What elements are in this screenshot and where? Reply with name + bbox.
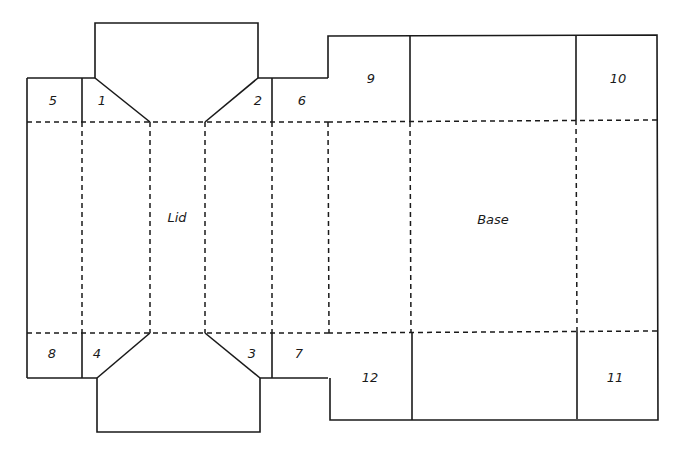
box-net-diagram xyxy=(0,0,681,452)
tab-label-11: 11 xyxy=(607,370,624,385)
tab-label-8: 8 xyxy=(48,346,56,361)
tab-label-4: 4 xyxy=(93,346,101,361)
tab-label-9: 9 xyxy=(367,71,375,86)
tab-label-5: 5 xyxy=(49,93,57,108)
tab-label-10: 10 xyxy=(610,71,627,86)
lid-fold-lines xyxy=(27,122,328,333)
tab-label-3: 3 xyxy=(248,346,256,361)
base-cut-lines xyxy=(328,35,658,420)
tab-label-12: 12 xyxy=(362,370,379,385)
base-fold-lines xyxy=(328,120,658,333)
base-label: Base xyxy=(477,212,509,227)
lid-cut-lines xyxy=(27,23,328,432)
tab-label-7: 7 xyxy=(295,346,303,361)
lid-label: Lid xyxy=(167,210,186,225)
tab-label-6: 6 xyxy=(298,93,306,108)
tab-label-1: 1 xyxy=(98,93,106,108)
tab-label-2: 2 xyxy=(254,93,262,108)
